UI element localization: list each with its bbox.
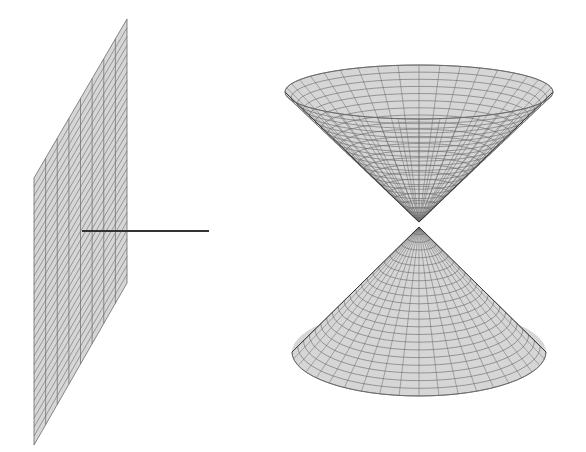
double-cone-surface — [285, 65, 553, 396]
figure-canvas — [0, 0, 586, 452]
